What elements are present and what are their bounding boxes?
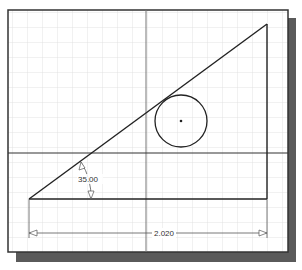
sketch-canvas[interactable]: 35.00 2.020 [0,0,302,270]
circle-center-point[interactable] [180,120,183,123]
length-dimension-label[interactable]: 2.020 [154,229,175,238]
sketch-grid [8,10,288,252]
frame-shadow-bottom [16,252,296,262]
frame-shadow-right [288,18,296,262]
angle-dimension-label[interactable]: 35.00 [78,175,99,184]
